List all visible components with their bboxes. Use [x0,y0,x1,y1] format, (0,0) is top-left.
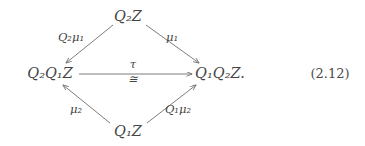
diagram-node-right: Q₁Q₂Z. [195,66,245,81]
edge-label-horizontal-cong: ≅ [128,74,138,86]
diagram-node-left: Q₂Q₁Z [27,66,72,81]
edge-label-top-right: μ₁ [166,32,178,44]
diagram-node-top: Q₂Z [114,9,142,24]
edge-label-top-left: Q₂μ₁ [58,32,84,44]
edge-label-bottom-right: Q₁μ₂ [165,104,191,116]
commutative-diagram-figure: Q₂Z Q₂Q₁Z Q₁Q₂Z. Q₁Z Q₂μ₁ μ₁ μ₂ Q₁μ₂ τ ≅… [0,0,365,146]
equation-number: (2.12) [310,67,349,80]
edge-label-horizontal-tau: τ [130,59,136,71]
diagram-node-bottom: Q₁Z [114,124,142,139]
edge-label-bottom-left: μ₂ [70,104,82,116]
